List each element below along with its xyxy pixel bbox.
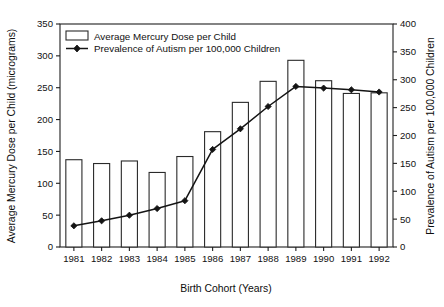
x-tick-label-1981: 1981 — [63, 253, 84, 264]
y-left-tick-label: 0 — [48, 241, 53, 252]
bar-1991 — [343, 93, 359, 247]
y-left-tick-label: 300 — [37, 50, 53, 61]
bar-1990 — [316, 81, 332, 247]
y-axis-left-title: Average Mercury Dose per Child (microgra… — [6, 29, 17, 244]
y-axis-right-ticks: 050100150200250300350400 — [393, 18, 416, 252]
bar-1983 — [121, 161, 137, 247]
x-tick-label-1984: 1984 — [146, 253, 168, 264]
legend-label-autism: Prevalence of Autism per 100,000 Childre… — [94, 43, 280, 54]
y-left-tick-label: 150 — [37, 146, 53, 157]
x-axis-ticks: 1981198219831984198519861987198819891990… — [63, 247, 390, 264]
y-right-tick-label: 350 — [400, 46, 416, 57]
x-tick-label-1988: 1988 — [257, 253, 278, 264]
y-right-tick-label: 300 — [400, 74, 416, 85]
y-left-tick-label: 250 — [37, 82, 53, 93]
x-tick-label-1991: 1991 — [341, 253, 362, 264]
x-tick-label-1989: 1989 — [285, 253, 306, 264]
y-right-tick-label: 50 — [400, 214, 411, 225]
y-axis-left-ticks: 050100150200250300350 — [37, 18, 60, 252]
y-right-tick-label: 250 — [400, 102, 416, 113]
y-left-tick-label: 350 — [37, 18, 53, 29]
x-tick-label-1982: 1982 — [91, 253, 112, 264]
chart-figure: 050100150200250300350 050100150200250300… — [0, 0, 444, 307]
bar-1992 — [371, 93, 387, 247]
bar-swatch-icon — [66, 31, 88, 40]
y-axis-right-title: Prevalence of Autism per 100,000 Childre… — [425, 37, 436, 235]
y-right-tick-label: 100 — [400, 186, 416, 197]
x-tick-label-1987: 1987 — [230, 253, 251, 264]
x-tick-label-1990: 1990 — [313, 253, 334, 264]
y-left-tick-label: 100 — [37, 178, 53, 189]
x-tick-label-1986: 1986 — [202, 253, 223, 264]
y-left-tick-label: 50 — [42, 210, 53, 221]
y-right-tick-label: 0 — [400, 241, 405, 252]
y-right-tick-label: 200 — [400, 130, 416, 141]
x-tick-label-1985: 1985 — [174, 253, 195, 264]
x-axis-title: Birth Cohort (Years) — [180, 283, 271, 294]
y-left-tick-label: 200 — [37, 114, 53, 125]
y-right-tick-label: 400 — [400, 18, 416, 29]
bar-1981 — [66, 160, 82, 247]
y-right-tick-label: 150 — [400, 158, 416, 169]
legend-label-mercury: Average Mercury Dose per Child — [94, 31, 236, 42]
x-tick-label-1983: 1983 — [119, 253, 140, 264]
bar-1982 — [94, 164, 110, 247]
mercury-autism-chart: 050100150200250300350 050100150200250300… — [0, 0, 444, 307]
x-tick-label-1992: 1992 — [368, 253, 389, 264]
